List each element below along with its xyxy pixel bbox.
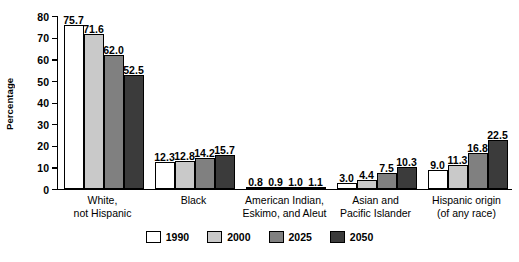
bar-value-label: 75.7 [63, 14, 83, 26]
bar-value-label: 1.1 [308, 176, 323, 188]
legend-swatch [330, 231, 345, 243]
bar-value-label: 11.3 [448, 154, 468, 166]
bar-value-label: 7.5 [379, 162, 394, 174]
bar-value-label: 14.2 [194, 147, 214, 159]
bar[interactable]: 12.8 [175, 161, 195, 189]
bar-value-label: 4.4 [359, 169, 374, 181]
bar-value-label: 12.8 [174, 150, 194, 162]
y-tick: 0 [52, 189, 57, 190]
bar-value-label: 15.7 [214, 144, 234, 156]
bar[interactable]: 15.7 [215, 155, 235, 189]
legend-item[interactable]: 1990 [146, 231, 189, 243]
bar-value-label: 10.3 [396, 156, 416, 168]
bar-group: 9.011.316.822.5 [428, 16, 508, 189]
bar[interactable]: 3.0 [337, 183, 357, 189]
legend-label: 1990 [166, 231, 189, 243]
legend-label: 2025 [289, 231, 312, 243]
plot-area: 01020304050607080 75.771.662.052.512.312… [57, 16, 512, 190]
bar[interactable]: 1.0 [286, 187, 306, 189]
y-tick-label: 80 [37, 11, 49, 23]
y-tick-label: 60 [37, 54, 49, 66]
legend-label: 2000 [227, 231, 250, 243]
bar-group: 3.04.47.510.3 [337, 16, 417, 189]
bar-value-label: 0.9 [268, 176, 283, 188]
bar-group: 12.312.814.215.7 [155, 16, 235, 189]
y-tick: 10 [52, 167, 57, 168]
bar[interactable]: 0.9 [266, 187, 286, 189]
bar[interactable]: 14.2 [195, 158, 215, 189]
y-tick: 80 [52, 16, 57, 17]
bar[interactable]: 7.5 [377, 173, 397, 189]
y-tick: 40 [52, 103, 57, 104]
y-tick: 20 [52, 146, 57, 147]
y-tick-label: 40 [37, 97, 49, 109]
bar[interactable]: 12.3 [155, 162, 175, 189]
bar[interactable]: 0.8 [246, 187, 266, 189]
x-axis-line [57, 189, 512, 190]
bar[interactable]: 71.6 [84, 34, 104, 189]
legend-item[interactable]: 2050 [330, 231, 373, 243]
bar-value-label: 1.0 [288, 176, 303, 188]
y-tick-label: 50 [37, 76, 49, 88]
legend-item[interactable]: 2025 [269, 231, 312, 243]
y-tick-label: 30 [37, 119, 49, 131]
bar-chart: Percentage 01020304050607080 75.771.662.… [0, 0, 519, 262]
legend-swatch [146, 231, 161, 243]
y-tick: 30 [52, 124, 57, 125]
bar-value-label: 3.0 [339, 172, 354, 184]
bar-value-label: 62.0 [103, 44, 123, 56]
bar-value-label: 0.8 [248, 176, 263, 188]
y-tick-label: 10 [37, 162, 49, 174]
y-tick: 70 [52, 38, 57, 39]
y-axis-label: Percentage [2, 44, 18, 164]
bar-value-label: 12.3 [154, 151, 174, 163]
bar[interactable]: 75.7 [64, 25, 84, 189]
legend-label: 2050 [350, 231, 373, 243]
legend: 1990200020252050 [0, 231, 519, 243]
bar[interactable]: 4.4 [357, 180, 377, 190]
legend-item[interactable]: 2000 [207, 231, 250, 243]
y-tick-label: 70 [37, 32, 49, 44]
bar-group: 0.80.91.01.1 [246, 16, 326, 189]
bar-value-label: 16.8 [467, 142, 487, 154]
y-tick-label: 20 [37, 140, 49, 152]
category-label: Hispanic origin (of any race) [407, 194, 519, 219]
y-tick: 50 [52, 81, 57, 82]
legend-swatch [269, 231, 284, 243]
bar[interactable]: 9.0 [428, 170, 448, 189]
bar-value-label: 9.0 [430, 159, 445, 171]
bar-value-label: 71.6 [83, 23, 103, 35]
y-axis-line [57, 16, 58, 190]
bar[interactable]: 62.0 [104, 55, 124, 189]
y-tick: 60 [52, 59, 57, 60]
bar-group: 75.771.662.052.5 [64, 16, 144, 189]
bar[interactable]: 11.3 [448, 165, 468, 189]
bar[interactable]: 10.3 [397, 167, 417, 189]
bar[interactable]: 1.1 [306, 187, 326, 189]
bar-value-label: 52.5 [123, 64, 143, 76]
bar-value-label: 22.5 [487, 129, 507, 141]
bar[interactable]: 16.8 [468, 153, 488, 189]
bar[interactable]: 22.5 [488, 140, 508, 189]
legend-swatch [207, 231, 222, 243]
bar[interactable]: 52.5 [124, 75, 144, 189]
